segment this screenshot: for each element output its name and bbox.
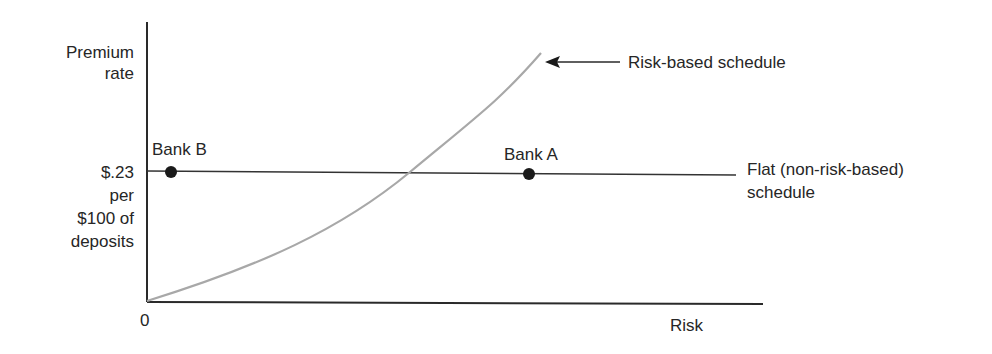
risk-based-schedule-label: Risk-based schedule — [628, 52, 786, 73]
bank-a-dot — [523, 168, 535, 180]
y-value-line-2: per — [71, 184, 134, 207]
y-axis-label-line-1: Premium — [66, 42, 134, 63]
y-value-line-3: $100 of — [71, 207, 134, 230]
flat-schedule-label: Flat (non-risk-based) schedule — [747, 158, 904, 204]
bank-b-label: Bank B — [152, 139, 207, 160]
flat-schedule-line — [147, 171, 736, 175]
flat-label-line-1: Flat (non-risk-based) — [747, 158, 904, 181]
origin-label: 0 — [140, 310, 149, 331]
y-axis-label: Premium rate — [66, 42, 134, 84]
x-axis-label: Risk — [670, 315, 703, 336]
y-value-label: $.23 per $100 of deposits — [71, 161, 134, 253]
risk-based-curve — [147, 53, 541, 301]
y-axis-label-line-2: rate — [66, 63, 134, 84]
flat-label-line-2: schedule — [747, 181, 904, 204]
bank-a-label: Bank A — [504, 144, 558, 165]
y-value-line-4: deposits — [71, 230, 134, 253]
bank-b-dot — [165, 166, 177, 178]
x-axis — [147, 302, 763, 304]
y-value-line-1: $.23 — [71, 161, 134, 184]
